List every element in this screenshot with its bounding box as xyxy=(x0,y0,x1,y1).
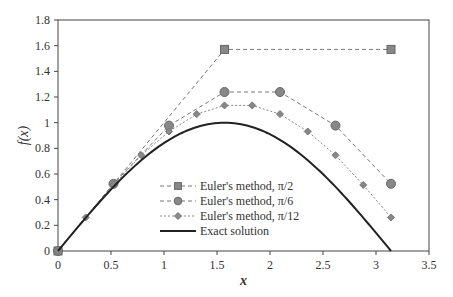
y-tick-label: 0.2 xyxy=(35,218,50,232)
x-tick-label: 3 xyxy=(373,258,379,272)
y-tick-label: 1 xyxy=(44,116,50,130)
x-tick-label: 2 xyxy=(267,258,273,272)
legend-entry: Euler's method, π/2 xyxy=(200,179,293,193)
y-tick-label: 0.8 xyxy=(35,141,50,155)
x-axis-label: x xyxy=(239,273,247,288)
y-axis-label: f(x) xyxy=(16,125,32,145)
y-tick-label: 1.6 xyxy=(35,39,50,53)
x-tick-label: 1 xyxy=(161,258,167,272)
legend: Euler's method, π/2Euler's method, π/6Eu… xyxy=(160,179,299,238)
y-tick-label: 0.4 xyxy=(35,193,50,207)
x-tick-label: 0.5 xyxy=(104,258,119,272)
legend-entry: Exact solution xyxy=(200,224,269,238)
x-tick-label: 2.5 xyxy=(316,258,331,272)
y-tick-label: 1.8 xyxy=(35,13,50,27)
y-tick-label: 0.6 xyxy=(35,167,50,181)
y-tick-label: 1.4 xyxy=(35,64,50,78)
x-tick-label: 0 xyxy=(55,258,61,272)
x-tick-label: 3.5 xyxy=(422,258,437,272)
y-tick-label: 0 xyxy=(44,244,50,258)
legend-entry: Euler's method, π/12 xyxy=(200,209,299,223)
legend-entry: Euler's method, π/6 xyxy=(200,194,293,208)
x-tick-label: 1.5 xyxy=(210,258,225,272)
y-tick-label: 1.2 xyxy=(35,90,50,104)
chart: 00.20.40.60.811.21.41.61.800.511.522.533… xyxy=(0,0,453,297)
